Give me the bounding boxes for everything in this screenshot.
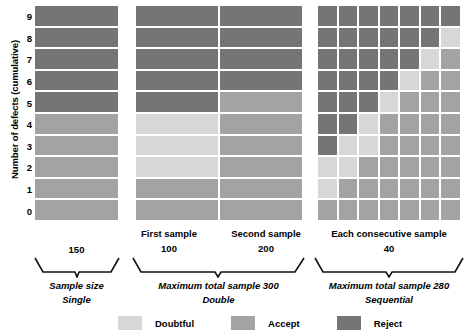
cell-sequential-d9-c1-reject [318,6,339,28]
cell-sequential-d4-c3-doubtful [359,114,380,136]
cell-sequential-d2-c1-doubtful [318,157,339,179]
cell-sequential-d0-c6-accept [421,200,442,222]
cell-double-d8-c1-reject [136,28,220,50]
cell-sequential-d7-c3-reject [359,49,380,71]
cell-sequential-d6-c4-reject [380,71,401,93]
cell-double-d6-c2-reject [220,71,302,93]
double-bracket-caption: Maximum total sample 300 [131,280,306,291]
cell-double-d8-c2-reject [220,28,302,50]
cell-sequential-d5-c4-doubtful [380,92,401,114]
cell-double-d5-c2-accept [220,92,302,114]
grid-row-defects-7 [35,49,118,71]
grid-row-defects-6 [136,71,302,93]
single-bracket-caption: Sample size [27,280,126,291]
legend: DoubtfulAcceptReject [118,316,439,330]
cell-sequential-d1-c7-accept [441,179,460,201]
cell-double-d5-c1-reject [136,92,220,114]
grid-row-defects-5 [136,92,302,114]
y-axis-tick-1: 1 [16,179,32,201]
cell-sequential-d5-c1-reject [318,92,339,114]
cell-single-d3-c1-accept [35,136,118,158]
cell-sequential-d7-c7-accept [441,49,460,71]
y-axis-tick-0: 0 [16,200,32,222]
grid-row-defects-9 [318,6,460,28]
cell-sequential-d0-c7-accept [441,200,460,222]
cell-sequential-d4-c4-accept [380,114,401,136]
sequential-column-header: Each consecutive sample [312,228,466,239]
cell-sequential-d6-c6-accept [421,71,442,93]
legend-swatch-doubtful [118,316,142,330]
cell-sequential-d8-c7-doubtful [441,28,460,50]
cell-single-d9-c1-reject [35,6,118,28]
cell-sequential-d5-c7-accept [441,92,460,114]
cell-sequential-d2-c6-accept [421,157,442,179]
cell-sequential-d8-c6-reject [421,28,442,50]
cell-sequential-d0-c3-accept [359,200,380,222]
cell-sequential-d3-c7-accept [441,136,460,158]
cell-sequential-d2-c2-doubtful [339,157,360,179]
grid-row-defects-2 [35,157,118,179]
panel-single-plan [35,6,118,222]
cell-sequential-d9-c4-reject [380,6,401,28]
cell-double-d1-c1-accept [136,179,220,201]
y-axis-tick-9: 9 [16,6,32,28]
grid-row-defects-3 [318,136,460,158]
cell-double-d0-c1-accept [136,200,220,222]
cell-single-d6-c1-reject [35,71,118,93]
cell-sequential-d7-c6-doubtful [421,49,442,71]
double-plan-label: Double [131,294,306,305]
cell-sequential-d9-c2-reject [339,6,360,28]
y-axis-tick-8: 8 [16,28,32,50]
grid-row-defects-3 [35,136,118,158]
grid-row-defects-5 [318,92,460,114]
cell-sequential-d9-c3-reject [359,6,380,28]
cell-double-d4-c2-accept [220,114,302,136]
cell-double-d4-c1-doubtful [136,114,220,136]
single-plan-label: Single [27,294,126,305]
cell-sequential-d2-c5-accept [400,157,421,179]
cell-sequential-d8-c2-reject [339,28,360,50]
cell-sequential-d0-c4-accept [380,200,401,222]
y-axis-tick-4: 4 [16,114,32,136]
cell-sequential-d3-c2-doubtful [339,136,360,158]
grid-row-defects-9 [35,6,118,28]
y-axis-tick-labels: 9876543210 [16,6,32,222]
double-column-header-first: First sample [128,228,210,239]
cell-sequential-d8-c4-reject [380,28,401,50]
grid-row-defects-6 [318,71,460,93]
cell-single-d2-c1-accept [35,157,118,179]
cell-sequential-d8-c5-reject [400,28,421,50]
cell-sequential-d6-c7-accept [441,71,460,93]
cell-sequential-d6-c1-reject [318,71,339,93]
cell-sequential-d8-c3-reject [359,28,380,50]
double-sample-number-second: 200 [221,243,311,254]
grid-row-defects-4 [35,114,118,136]
grid-row-defects-8 [136,28,302,50]
cell-sequential-d0-c2-accept [339,200,360,222]
cell-sequential-d4-c7-accept [441,114,460,136]
grid-row-defects-1 [136,179,302,201]
cell-sequential-d1-c4-accept [380,179,401,201]
cell-sequential-d6-c5-doubtful [400,71,421,93]
grid-row-defects-3 [136,136,302,158]
cell-double-d6-c1-reject [136,71,220,93]
grid-row-defects-1 [318,179,460,201]
grid-row-defects-0 [35,200,118,222]
grid-row-defects-0 [318,200,460,222]
panel-sequential-plan [318,6,460,222]
cell-sequential-d8-c1-reject [318,28,339,50]
cell-single-d5-c1-reject [35,92,118,114]
cell-single-d8-c1-reject [35,28,118,50]
legend-item-accept: Accept [231,316,337,330]
cell-sequential-d1-c6-accept [421,179,442,201]
grid-row-defects-7 [318,49,460,71]
legend-item-reject: Reject [337,316,440,330]
cell-sequential-d3-c6-accept [421,136,442,158]
cell-sequential-d4-c6-accept [421,114,442,136]
legend-label-doubtful: Doubtful [155,318,194,329]
cell-double-d3-c1-doubtful [136,136,220,158]
cell-sequential-d7-c2-reject [339,49,360,71]
double-bracket-icon [131,256,306,278]
y-axis-tick-5: 5 [16,92,32,114]
single-bracket-icon [33,256,121,278]
